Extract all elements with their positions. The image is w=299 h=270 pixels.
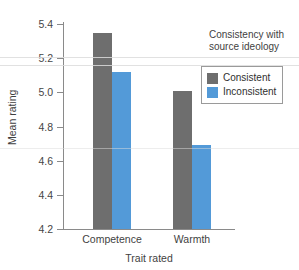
y-axis-title: Mean rating <box>7 77 18 157</box>
x-axis-title: Trait rated <box>63 253 235 264</box>
legend-title-line-2: source ideology <box>209 41 299 53</box>
y-tick-label: 5.4 <box>13 19 53 30</box>
bar-competence-inconsistent <box>112 72 131 229</box>
legend-label-inconsistent: Inconsistent <box>223 87 276 97</box>
x-tick-label: Warmth <box>147 234 237 245</box>
y-tick-label: 5.0 <box>13 87 53 98</box>
legend-item-inconsistent: Inconsistent <box>207 85 276 99</box>
bar-warmth-consistent <box>173 91 192 229</box>
y-tick-label: 4.4 <box>13 190 53 201</box>
y-tick-mark <box>57 229 63 230</box>
legend-title: Consistency with source ideology <box>209 29 299 53</box>
y-tick-label: 4.2 <box>13 224 53 235</box>
bar-competence-consistent <box>93 33 112 229</box>
plot-area <box>63 24 235 229</box>
legend-swatch-icon-inconsistent <box>207 87 218 98</box>
y-tick-label: 4.6 <box>13 156 53 167</box>
y-tick-label: 4.8 <box>13 122 53 133</box>
bar-chart: 4.24.44.64.85.05.25.4 CompetenceWarmth T… <box>0 0 299 270</box>
legend-swatch-icon-consistent <box>207 73 218 84</box>
legend-title-line-1: Consistency with <box>209 29 299 41</box>
y-tick-label: 5.2 <box>13 53 53 64</box>
bar-warmth-inconsistent <box>192 145 211 229</box>
legend-box: Consistent Inconsistent <box>201 66 283 104</box>
x-axis-line <box>63 229 235 230</box>
legend-item-consistent: Consistent <box>207 71 276 85</box>
legend-label-consistent: Consistent <box>223 73 270 83</box>
x-tick-label: Competence <box>67 234 157 245</box>
